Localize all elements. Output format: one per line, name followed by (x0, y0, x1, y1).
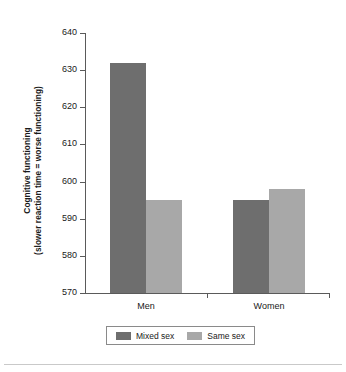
y-axis-tick: 600 (80, 182, 85, 183)
y-axis-tick: 630 (80, 70, 85, 71)
y-axis-tick-label: 600 (62, 176, 77, 187)
bar-men-same-sex (146, 200, 182, 293)
y-axis-tick-label: 580 (62, 250, 77, 261)
y-axis-tick-label: 610 (62, 138, 77, 149)
bar-men-mixed-sex (110, 63, 146, 293)
legend-swatch-mixed-sex (116, 332, 131, 340)
bar-women-same-sex (269, 189, 305, 293)
y-axis-tick-label: 570 (62, 287, 77, 298)
legend-swatch-same-sex (187, 332, 202, 340)
y-axis-title: Cognitive functioning (slower reaction t… (22, 36, 43, 306)
y-axis-tick: 610 (80, 144, 85, 145)
y-axis-tick-label: 630 (62, 64, 77, 75)
x-axis-group-separator-tick (207, 293, 208, 298)
x-axis-end-tick (329, 293, 330, 298)
y-axis-tick-label: 640 (62, 27, 77, 38)
y-axis-tick: 590 (80, 219, 85, 220)
x-axis-category-label-men: Men (110, 301, 182, 312)
y-axis-line (85, 33, 86, 293)
chart-legend: Mixed sex Same sex (106, 326, 255, 345)
y-axis-title-line-2: (slower reaction time = worse functionin… (32, 36, 43, 306)
y-axis-tick: 640 (80, 33, 85, 34)
y-axis-tick-label: 590 (62, 213, 77, 224)
bar-women-mixed-sex (233, 200, 269, 293)
y-axis-tick-label: 620 (62, 101, 77, 112)
legend-item-same-sex: Same sex (187, 331, 245, 341)
y-axis-title-line-1: Cognitive functioning (22, 127, 32, 213)
legend-item-mixed-sex: Mixed sex (116, 331, 174, 341)
y-axis-tick: 620 (80, 107, 85, 108)
bar-chart-figure: Cognitive functioning (slower reaction t… (0, 0, 346, 372)
legend-label-mixed-sex: Mixed sex (136, 331, 174, 341)
x-axis-category-label-women: Women (233, 301, 305, 312)
legend-label-same-sex: Same sex (207, 331, 245, 341)
footer-divider (4, 364, 342, 365)
y-axis-tick: 570 (80, 293, 85, 294)
plot-area: 640 630 620 610 600 590 580 570 (85, 33, 330, 293)
y-axis-tick: 580 (80, 256, 85, 257)
